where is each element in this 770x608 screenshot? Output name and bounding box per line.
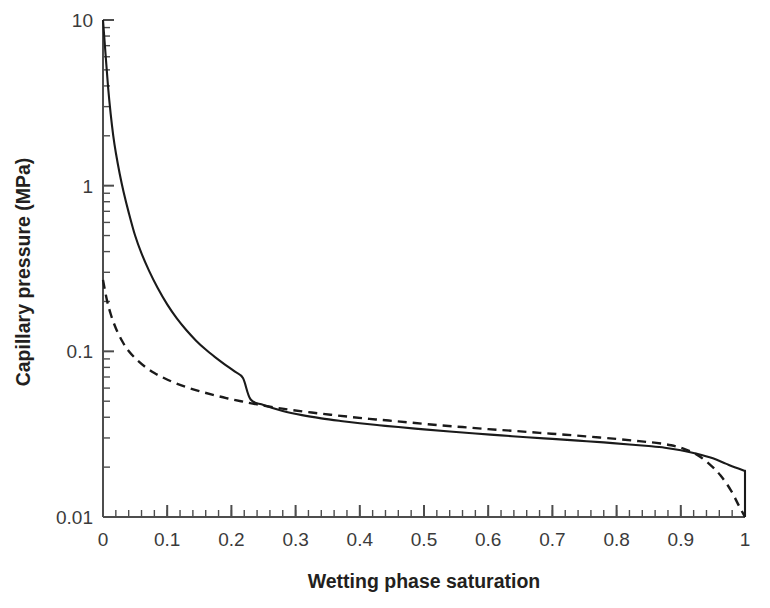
x-tick-label: 0.5 [411, 529, 437, 550]
x-tick-label: 0.7 [539, 529, 565, 550]
y-axis-tick-labels: 1010.10.01 [56, 10, 93, 528]
series-dashed-curve [103, 280, 745, 517]
series-solid-curve [103, 20, 745, 517]
x-axis-title: Wetting phase saturation [308, 570, 541, 592]
x-tick-label: 0.3 [282, 529, 308, 550]
plot-svg: 1010.10.01 00.10.20.30.40.50.60.70.80.91… [0, 0, 770, 608]
capillary-pressure-figure: 1010.10.01 00.10.20.30.40.50.60.70.80.91… [0, 0, 770, 608]
y-tick-label: 0.01 [56, 507, 93, 528]
x-axis-tick-labels: 00.10.20.30.40.50.60.70.80.91 [98, 529, 751, 550]
y-tick-label: 0.1 [67, 341, 93, 362]
x-tick-label: 0.1 [154, 529, 180, 550]
x-tick-label: 0.9 [668, 529, 694, 550]
x-tick-label: 0.4 [347, 529, 374, 550]
x-tick-label: 0 [98, 529, 109, 550]
x-tick-label: 1 [740, 529, 751, 550]
y-tick-label: 10 [72, 10, 93, 31]
y-tick-label: 1 [82, 176, 93, 197]
x-tick-label: 0.2 [218, 529, 244, 550]
axis-spines [103, 20, 745, 517]
y-axis-title: Capillary pressure (MPa) [12, 158, 34, 387]
x-tick-label: 0.6 [475, 529, 501, 550]
x-tick-label: 0.8 [603, 529, 629, 550]
x-axis-ticks [103, 505, 745, 517]
